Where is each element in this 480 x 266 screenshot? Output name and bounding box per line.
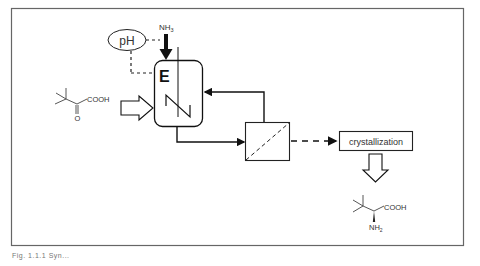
ammonia-feed-arrow-icon	[160, 34, 173, 60]
substrate-inlet-arrow-icon	[121, 96, 153, 120]
product-cooh-label: COOH	[384, 203, 407, 212]
crystallization-label: crystallization	[349, 137, 403, 147]
enzyme-label: E	[159, 68, 170, 85]
process-diagram: pH NH3 E COOH O	[0, 0, 480, 266]
filter-unit	[246, 123, 290, 161]
filter-recycle-line	[205, 92, 264, 122]
substrate-cooh-label: COOH	[87, 95, 110, 104]
ph-sensor: pH	[108, 30, 146, 51]
enzyme-reactor: E	[155, 47, 203, 127]
reactor-to-filter-line	[177, 127, 244, 142]
product-outlet-arrow-icon	[363, 154, 388, 182]
figure-caption: Fig. 1.1.1 Syn...	[12, 252, 70, 259]
substrate-oxo-label: O	[75, 114, 81, 123]
wedge-bond-icon	[373, 211, 375, 222]
ammonia-label: NH3	[159, 23, 174, 33]
product-structure	[353, 195, 384, 212]
product-amine-label: NH2	[369, 223, 383, 233]
crystallization-unit: crystallization	[340, 132, 413, 151]
substrate-structure	[55, 88, 87, 114]
ph-label: pH	[119, 34, 134, 48]
